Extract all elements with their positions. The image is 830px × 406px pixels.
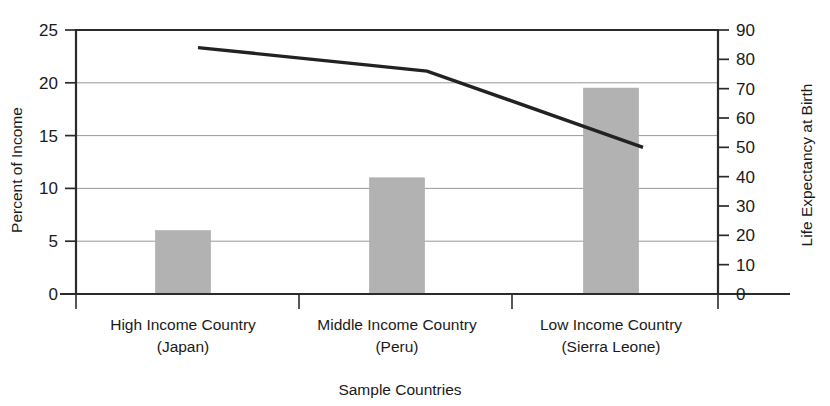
x-category-sublabel: (Sierra Leone): [561, 338, 660, 355]
y-tick-label-right: 50: [736, 138, 755, 157]
x-axis-title: Sample Countries: [338, 381, 461, 398]
y-tick-label-left: 10: [39, 179, 58, 198]
bar: [156, 231, 211, 294]
bar: [370, 178, 425, 294]
chart-canvas: 0510152025 0102030405060708090 Percent o…: [0, 0, 830, 406]
x-category-label: High Income Country: [110, 316, 256, 333]
y-tick-label-left: 20: [39, 74, 58, 93]
y-tick-label-right: 90: [736, 21, 755, 40]
x-category-sublabel: (Japan): [157, 338, 210, 355]
y-axis-right-ticks: 0102030405060708090: [718, 21, 755, 304]
x-category-sublabel: (Peru): [375, 338, 418, 355]
y-tick-label-right: 40: [736, 168, 755, 187]
y-axis-left-ticks: 0510152025: [39, 21, 76, 304]
y-tick-label-left: 5: [49, 232, 58, 251]
y-tick-label-left: 15: [39, 127, 58, 146]
y-tick-label-right: 60: [736, 109, 755, 128]
x-category-label: Low Income Country: [540, 316, 682, 333]
chart-figure: 0510152025 0102030405060708090 Percent o…: [0, 0, 830, 406]
y-tick-label-left: 25: [39, 21, 58, 40]
y-tick-label-right: 0: [736, 285, 745, 304]
x-category-label: Middle Income Country: [317, 316, 477, 333]
y-tick-label-right: 80: [736, 50, 755, 69]
y-axis-right-title: Life Expectancy at Birth: [798, 84, 815, 247]
y-tick-label-right: 30: [736, 197, 755, 216]
y-tick-label-right: 20: [736, 226, 755, 245]
y-axis-left-title: Percent of Income: [8, 107, 25, 233]
x-axis-category-labels: High Income Country(Japan)Middle Income …: [110, 316, 682, 355]
y-tick-label-left: 0: [49, 285, 58, 304]
y-tick-label-right: 70: [736, 80, 755, 99]
bar: [584, 88, 639, 294]
y-tick-label-right: 10: [736, 256, 755, 275]
